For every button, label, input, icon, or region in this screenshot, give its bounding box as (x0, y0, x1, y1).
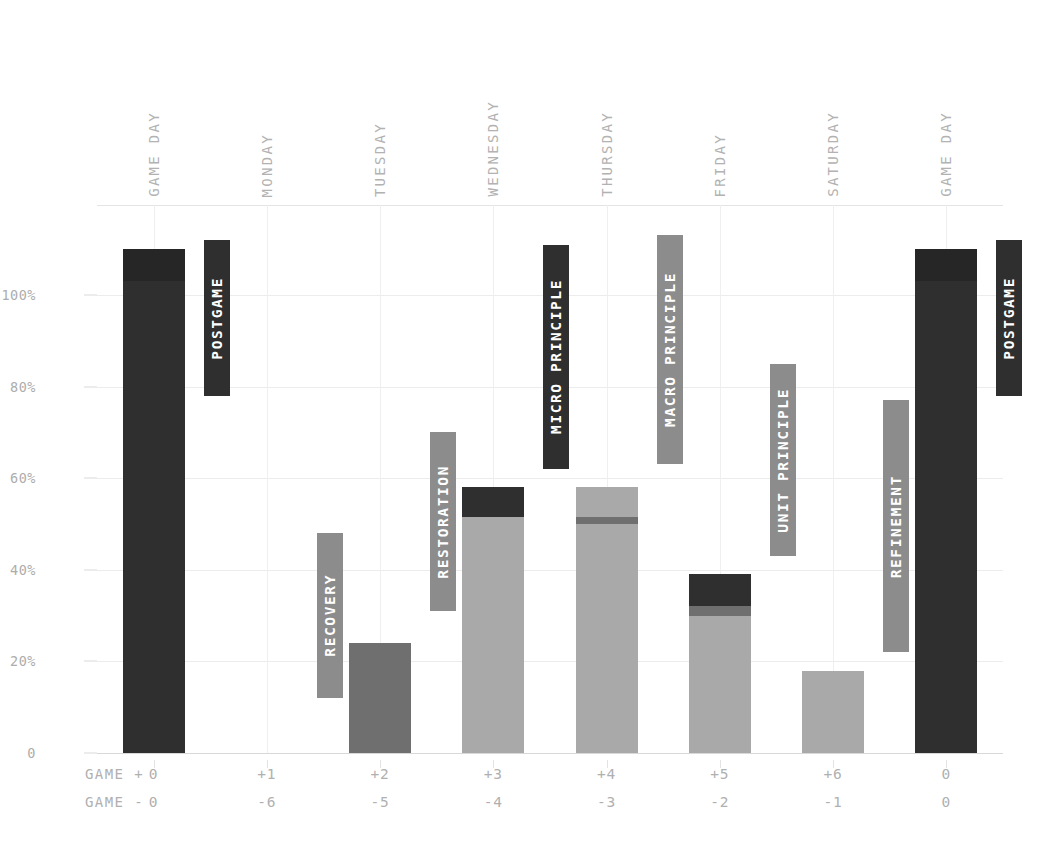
category-label-0: GAME DAY (146, 111, 162, 197)
axis-tick-5 (720, 760, 721, 768)
bar-segment-mid-load (349, 643, 411, 753)
badge-postgame[interactable]: POSTGAME (204, 240, 230, 396)
category-label-text: THURSDAY (599, 111, 615, 197)
badge-restoration[interactable]: RESTORATION (430, 432, 456, 611)
badge-label: RESTORATION (435, 465, 451, 579)
badge-label: UNIT PRINCIPLE (775, 388, 791, 533)
badge-label: RECOVERY (322, 574, 338, 657)
bar-segment-cap-load (915, 249, 977, 281)
axis-row-label: GAME + (0, 766, 144, 782)
axis-cell: +6 (823, 766, 842, 782)
bar-segment-base-load (689, 616, 751, 753)
bar-segment-peak-load (462, 487, 524, 517)
badge-label: POSTGAME (209, 277, 225, 360)
bar-saturday-6[interactable] (802, 671, 864, 753)
badge-label: POSTGAME (1001, 277, 1017, 360)
axis-cell: +3 (484, 766, 503, 782)
bar-segment-base-load (462, 517, 524, 753)
axis-cell: -3 (597, 794, 616, 810)
badge-label: MICRO PRINCIPLE (548, 279, 564, 434)
category-label-text: TUESDAY (372, 122, 388, 197)
y-axis-tick-label-0: 0 (0, 745, 36, 761)
category-label-1: MONDAY (259, 133, 275, 197)
axis-cell: 0 (942, 766, 952, 782)
bar-tuesday-2[interactable] (349, 643, 411, 753)
vertical-gridline-1 (267, 205, 268, 753)
axis-cell: 0 (149, 794, 159, 810)
axis-cell: -6 (257, 794, 276, 810)
category-label-text: GAME DAY (146, 111, 162, 197)
y-axis-tick-label-60: 60% (0, 470, 36, 486)
category-label-6: SATURDAY (825, 111, 841, 197)
category-label-4: THURSDAY (599, 111, 615, 197)
axis-cell: +1 (257, 766, 276, 782)
axis-cell: +5 (710, 766, 729, 782)
category-labels-top: GAME DAYMONDAYTUESDAYWEDNESDAYTHURSDAYFR… (97, 0, 1003, 205)
chart-canvas: GAME DAYMONDAYTUESDAYWEDNESDAYTHURSDAYFR… (0, 0, 1049, 860)
category-label-3: WEDNESDAY (485, 100, 501, 197)
bar-segment-mid-load (689, 606, 751, 615)
y-axis-tick-mark-40 (84, 569, 97, 570)
y-axis-tick-mark-20 (84, 661, 97, 662)
axis-cell: -5 (370, 794, 389, 810)
axis-cell: +2 (370, 766, 389, 782)
axis-cell: -2 (710, 794, 729, 810)
category-label-text: MONDAY (259, 133, 275, 197)
bar-segment-peak-load (915, 281, 977, 753)
category-label-text: FRIDAY (712, 133, 728, 197)
bar-segment-peak-load (689, 574, 751, 606)
axis-tick-2 (380, 760, 381, 768)
gridline-0 (97, 753, 1003, 754)
y-axis-tick-label-100: 100% (0, 287, 36, 303)
plot-area: POSTGAMERECOVERYRESTORATIONMICRO PRINCIP… (97, 205, 1003, 753)
gridline-20 (97, 661, 1003, 662)
axis-cell: 0 (149, 766, 159, 782)
axis-tick-4 (607, 760, 608, 768)
bar-wednesday-3[interactable] (462, 487, 524, 753)
y-axis-tick-mark-60 (84, 478, 97, 479)
axis-tick-0 (154, 760, 155, 768)
plot-top-rule (97, 205, 1003, 206)
bar-friday-5[interactable] (689, 574, 751, 753)
bar-segment-upper-load (576, 487, 638, 517)
y-axis-tick-mark-80 (84, 386, 97, 387)
y-axis-tick-label-20: 20% (0, 653, 36, 669)
y-axis-tick-label-80: 80% (0, 379, 36, 395)
badge-postgame[interactable]: POSTGAME (996, 240, 1022, 396)
bottom-axis: GAME +0+1+2+3+4+5+60GAME -0-6-5-4-3-2-10 (0, 760, 1049, 830)
badge-label: MACRO PRINCIPLE (662, 272, 678, 427)
y-axis-tick-mark-100 (84, 295, 97, 296)
axis-cell: +4 (597, 766, 616, 782)
bar-segment-base-load (802, 671, 864, 753)
bar-segment-cap-load (123, 249, 185, 281)
bar-segment-mid-load (576, 517, 638, 524)
badge-unit-principle[interactable]: UNIT PRINCIPLE (770, 364, 796, 556)
category-label-text: WEDNESDAY (485, 100, 501, 197)
category-label-5: FRIDAY (712, 133, 728, 197)
gridline-60 (97, 478, 1003, 479)
category-label-text: SATURDAY (825, 111, 841, 197)
category-label-text: GAME DAY (938, 111, 954, 197)
axis-tick-3 (493, 760, 494, 768)
category-label-2: TUESDAY (372, 122, 388, 197)
bar-thursday-4[interactable] (576, 487, 638, 753)
y-axis-tick-label-40: 40% (0, 562, 36, 578)
gridline-40 (97, 570, 1003, 571)
category-label-7: GAME DAY (938, 111, 954, 197)
axis-cell: 0 (942, 794, 952, 810)
badge-label: REFINEMENT (888, 475, 904, 578)
bar-segment-base-load (576, 524, 638, 753)
bar-segment-peak-load (123, 281, 185, 753)
axis-tick-7 (946, 760, 947, 768)
axis-row-label: GAME - (0, 794, 144, 810)
axis-cell: -1 (823, 794, 842, 810)
badge-refinement[interactable]: REFINEMENT (883, 400, 909, 652)
badge-macro-principle[interactable]: MACRO PRINCIPLE (657, 235, 683, 464)
y-axis-tick-mark-0 (84, 753, 97, 754)
axis-row-game-: GAME -0-6-5-4-3-2-10 (0, 794, 1049, 822)
axis-tick-1 (267, 760, 268, 768)
badge-recovery[interactable]: RECOVERY (317, 533, 343, 698)
badge-micro-principle[interactable]: MICRO PRINCIPLE (543, 245, 569, 469)
bar-game-day-0[interactable] (123, 249, 185, 753)
bar-game-day-7[interactable] (915, 249, 977, 753)
